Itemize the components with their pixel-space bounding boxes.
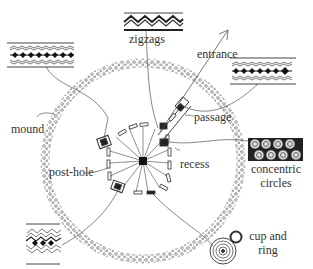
lozenge-panel-right (230, 58, 296, 84)
label-concentric-line1: concentric (244, 163, 308, 175)
label-post-hole: post-hole (49, 166, 94, 178)
label-recess: recess (180, 158, 209, 170)
label-zigzags: zigzags (129, 33, 165, 45)
zigzag-panel-top (124, 13, 183, 30)
label-concentric-circles: concentric circles (244, 163, 308, 189)
cup-and-ring-stone (210, 232, 242, 265)
lozenge-panel-left (7, 43, 74, 67)
label-cup-and-ring-line1: cup and (243, 230, 293, 242)
label-mound: mound (11, 123, 44, 135)
label-entrance: entrance (197, 48, 238, 60)
concentric-circles-panel (248, 138, 303, 161)
label-cup-and-ring: cup and ring (243, 230, 293, 256)
passage (158, 97, 191, 139)
label-cup-and-ring-line2: ring (243, 244, 293, 256)
label-passage: passage (194, 111, 231, 123)
zigzag-lozenge-panel-bottom-left (26, 224, 61, 264)
label-concentric-line2: circles (244, 177, 308, 189)
